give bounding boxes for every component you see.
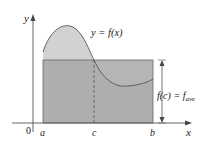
x-axis-arrow-icon (185, 121, 192, 126)
tick-label-c: c (92, 127, 97, 138)
y-axis-label: y (23, 12, 29, 24)
tick-label-a: a (40, 127, 45, 138)
height-arrow-top-icon (160, 60, 165, 66)
x-axis-label: x (185, 126, 191, 138)
average-value-subscript: ave (185, 95, 195, 103)
y-axis-arrow-icon (31, 14, 36, 21)
average-value-label: f(c) = fave (157, 90, 195, 103)
average-value-main: f(c) = f (157, 90, 187, 102)
mean-value-theorem-diagram: y x 0 a c b y = f(x) f(c) = fave (0, 0, 208, 148)
height-arrow-bottom-icon (160, 117, 165, 123)
average-value-rectangle (43, 60, 153, 123)
tick-label-b: b (150, 127, 155, 138)
origin-label: 0 (26, 125, 31, 136)
curve-label: y = f(x) (90, 27, 123, 39)
